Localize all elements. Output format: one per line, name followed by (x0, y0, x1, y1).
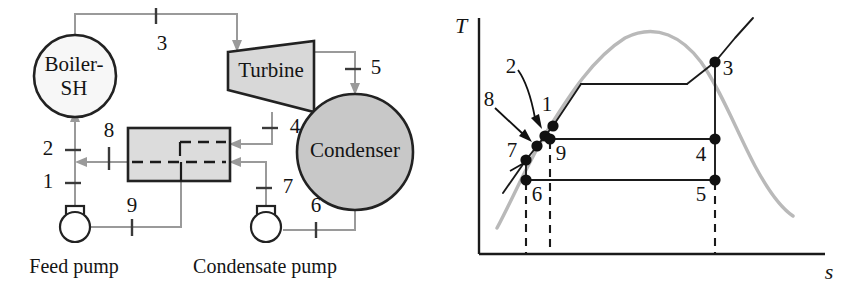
boiler-component[interactable]: Boiler- SH (34, 35, 116, 117)
feed-pump-caption: Feed pump (29, 255, 118, 278)
pipe-arrow-fwh-outlet (75, 157, 87, 167)
ts-state-8: 8 (484, 87, 495, 111)
pipe-turbine-to-condenser (314, 52, 361, 95)
boiler-label-line1: Boiler- (44, 52, 103, 76)
dot-state-9 (544, 133, 555, 144)
boiler-label-line2: SH (61, 76, 88, 100)
turbine-label: Turbine (238, 58, 304, 82)
pipe-turbine-extraction-to-fwh (229, 112, 278, 149)
drop-lines-group (526, 141, 715, 254)
schematic-state-9: 9 (127, 193, 138, 217)
leader-head-state-2 (531, 114, 542, 129)
figure-root: Boiler- SH Turbine Condenser (0, 0, 850, 293)
pipe-fwh-to-feed-riser (75, 147, 129, 170)
dot-state-8 (531, 140, 542, 151)
feed-pump-circle[interactable] (60, 212, 90, 242)
ts-state-3: 3 (723, 56, 734, 80)
plant-schematic-panel: Boiler- SH Turbine Condenser (0, 0, 425, 293)
schematic-state-3: 3 (157, 31, 168, 55)
condenser-label: Condenser (310, 138, 400, 162)
superheat-segment (687, 18, 753, 84)
feed-pump-component[interactable] (60, 206, 90, 242)
ts-state-9: 9 (556, 141, 567, 165)
ts-state-4: 4 (696, 142, 707, 166)
feedwater-heater-component[interactable] (128, 128, 230, 181)
ts-state-1: 1 (542, 92, 553, 116)
leader-arrow-state-2 (518, 70, 542, 129)
schematic-state-5: 5 (371, 55, 382, 79)
dot-state-4 (709, 133, 720, 144)
ts-state-7: 7 (507, 138, 518, 162)
y-axis-label: T (455, 13, 469, 38)
condensate-pump-caption: Condensate pump (193, 255, 337, 278)
condensate-pump-circle[interactable] (251, 212, 281, 242)
condensate-pump-component[interactable] (251, 206, 281, 242)
dot-state-1 (547, 120, 558, 131)
schematic-state-1: 1 (43, 169, 54, 193)
pipe-feed-riser-to-boiler (65, 110, 81, 208)
ts-state-6: 6 (532, 182, 543, 206)
ts-state-2: 2 (506, 54, 517, 78)
schematic-state-8: 8 (104, 118, 115, 142)
schematic-state-6: 6 (311, 193, 322, 217)
schematic-state-2: 2 (43, 136, 54, 160)
turbine-component[interactable]: Turbine (228, 41, 314, 112)
state-dots-group (520, 56, 720, 185)
cycle-path-group (503, 18, 753, 193)
dot-state-3 (709, 56, 720, 67)
ts-state-5: 5 (696, 182, 707, 206)
dot-state-5 (709, 174, 720, 185)
schematic-state-7: 7 (283, 174, 294, 198)
dot-state-6 (520, 174, 531, 185)
schematic-state-4: 4 (290, 114, 301, 138)
x-axis-label: s (825, 259, 834, 284)
ts-diagram-panel: T s (425, 0, 850, 293)
